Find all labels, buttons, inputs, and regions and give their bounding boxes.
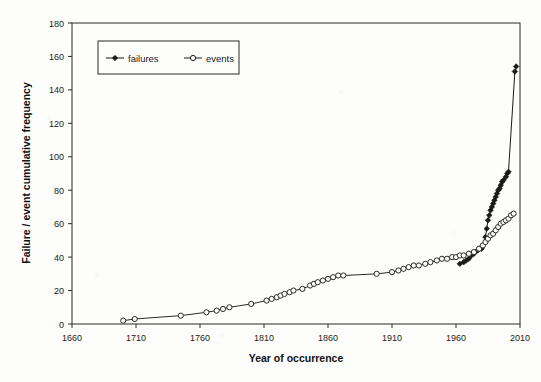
data-point-marker bbox=[264, 298, 269, 303]
data-point-marker bbox=[249, 301, 254, 306]
y-tick-label: 20 bbox=[54, 286, 64, 296]
data-point-marker bbox=[416, 263, 421, 268]
chart-container: 020406080100120140160180 166017101760181… bbox=[0, 0, 541, 382]
y-axis-title: Failure / event cumulative frequency bbox=[20, 82, 32, 264]
data-point-marker bbox=[282, 291, 287, 296]
data-point-marker bbox=[461, 253, 466, 258]
data-point-marker bbox=[220, 306, 225, 311]
chart-legend: failuresevents bbox=[98, 41, 239, 74]
data-point-marker bbox=[204, 310, 209, 315]
y-tick-label: 0 bbox=[59, 320, 64, 330]
data-point-marker bbox=[325, 276, 330, 281]
x-tick-label: 1910 bbox=[382, 333, 402, 343]
data-point-marker bbox=[315, 280, 320, 285]
data-point-marker bbox=[227, 305, 232, 310]
x-tick-label: 1960 bbox=[446, 333, 466, 343]
legend-label: failures bbox=[128, 53, 159, 64]
x-tick-label: 1660 bbox=[62, 333, 82, 343]
x-axis-title: Year of occurrence bbox=[249, 352, 344, 364]
x-tick-label: 1710 bbox=[126, 333, 146, 343]
x-tick-label: 1860 bbox=[318, 333, 338, 343]
data-point-marker bbox=[269, 296, 274, 301]
y-tick-label: 140 bbox=[49, 85, 64, 95]
cumulative-frequency-line-chart: 020406080100120140160180 166017101760181… bbox=[0, 0, 541, 382]
y-tick-label: 40 bbox=[54, 253, 64, 263]
data-point-marker bbox=[341, 273, 346, 278]
data-point-marker bbox=[406, 265, 411, 270]
data-point-marker bbox=[132, 316, 137, 321]
data-point-marker bbox=[439, 256, 444, 261]
data-point-marker bbox=[374, 271, 379, 276]
data-point-marker bbox=[428, 260, 433, 265]
y-tick-label: 100 bbox=[49, 152, 64, 162]
legend-label: events bbox=[206, 53, 234, 64]
data-point-marker bbox=[300, 286, 305, 291]
data-point-marker bbox=[291, 288, 296, 293]
x-tick-label: 2010 bbox=[510, 333, 530, 343]
data-point-marker bbox=[411, 263, 416, 268]
x-tick-label: 1810 bbox=[254, 333, 274, 343]
y-tick-label: 160 bbox=[49, 52, 64, 62]
data-point-marker bbox=[511, 211, 516, 216]
data-point-marker bbox=[444, 256, 449, 261]
data-point-marker bbox=[434, 258, 439, 263]
data-point-marker bbox=[466, 251, 471, 256]
data-point-marker bbox=[121, 318, 126, 323]
data-point-marker bbox=[389, 270, 394, 275]
data-point-marker bbox=[471, 249, 476, 254]
y-tick-label: 80 bbox=[54, 186, 64, 196]
data-point-marker bbox=[214, 308, 219, 313]
data-point-marker bbox=[336, 273, 341, 278]
y-tick-label: 60 bbox=[54, 219, 64, 229]
data-point-marker bbox=[331, 275, 336, 280]
data-point-marker bbox=[423, 261, 428, 266]
chart-background bbox=[0, 0, 541, 382]
data-point-marker bbox=[401, 266, 406, 271]
data-point-marker bbox=[178, 313, 183, 318]
y-tick-label: 180 bbox=[49, 19, 64, 29]
data-point-marker bbox=[190, 55, 195, 60]
data-point-marker bbox=[396, 268, 401, 273]
data-point-marker bbox=[320, 278, 325, 283]
y-tick-label: 120 bbox=[49, 119, 64, 129]
x-tick-label: 1760 bbox=[190, 333, 210, 343]
